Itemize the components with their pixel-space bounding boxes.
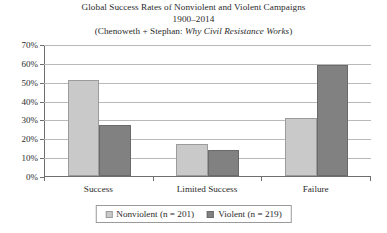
bar bbox=[208, 150, 240, 176]
y-axis-tick-label: 30% bbox=[22, 116, 39, 125]
y-axis-tick-mark bbox=[40, 102, 44, 103]
bar-group bbox=[45, 45, 154, 176]
y-axis-tick-mark bbox=[40, 158, 44, 159]
plot-area-wrapper: 70%60%50%40%30%20%10%0%SuccessLimited Su… bbox=[44, 45, 371, 177]
bar-chart: Global Success Rates of Nonviolent and V… bbox=[0, 0, 387, 233]
chart-legend: Nonviolent (n = 201)Violent (n = 219) bbox=[95, 205, 291, 223]
x-axis-category-label: Success bbox=[84, 184, 113, 195]
x-axis-tick-mark bbox=[370, 177, 371, 181]
y-axis-tick-mark bbox=[40, 120, 44, 121]
x-axis-tick-mark bbox=[153, 177, 154, 181]
bar bbox=[176, 144, 208, 176]
y-axis-tick-mark bbox=[40, 83, 44, 84]
legend-label: Violent (n = 219) bbox=[218, 209, 282, 219]
legend-item[interactable]: Violent (n = 219) bbox=[207, 209, 282, 219]
chart-source-line: (Chenoweth + Stephan: Why Civil Resistan… bbox=[0, 25, 387, 37]
y-axis-tick-mark bbox=[40, 64, 44, 65]
legend-swatch-icon bbox=[207, 211, 214, 218]
y-axis-tick-mark bbox=[40, 139, 44, 140]
plot-area: 70%60%50%40%30%20%10%0%SuccessLimited Su… bbox=[44, 45, 371, 177]
y-axis-tick-label: 70% bbox=[22, 41, 39, 50]
legend-label: Nonviolent (n = 201) bbox=[116, 209, 194, 219]
y-axis-tick-label: 0% bbox=[26, 173, 38, 182]
legend-item[interactable]: Nonviolent (n = 201) bbox=[105, 209, 194, 219]
y-axis-tick-label: 10% bbox=[22, 154, 39, 163]
bar bbox=[68, 80, 100, 176]
chart-title-line-1: Global Success Rates of Nonviolent and V… bbox=[0, 1, 387, 13]
bars-layer bbox=[45, 45, 371, 176]
legend-swatch-icon bbox=[105, 211, 112, 218]
chart-title-line-2: 1900–2014 bbox=[0, 13, 387, 25]
y-axis-tick-label: 50% bbox=[22, 78, 39, 87]
y-axis-tick-label: 40% bbox=[22, 97, 39, 106]
bar-group bbox=[262, 45, 371, 176]
y-axis-tick-mark bbox=[40, 45, 44, 46]
bar-group bbox=[154, 45, 263, 176]
x-axis-tick-mark bbox=[261, 177, 262, 181]
bar bbox=[99, 125, 131, 176]
source-prefix: (Chenoweth + Stephan: bbox=[95, 26, 185, 36]
source-suffix: ) bbox=[289, 26, 292, 36]
x-axis-category-label: Failure bbox=[303, 184, 329, 195]
bar bbox=[317, 65, 349, 176]
y-axis-tick-label: 20% bbox=[22, 135, 39, 144]
x-axis-line bbox=[44, 176, 371, 177]
source-book-title: Why Civil Resistance Works bbox=[185, 26, 289, 36]
chart-title-block: Global Success Rates of Nonviolent and V… bbox=[0, 1, 387, 38]
x-axis-tick-mark bbox=[44, 177, 45, 181]
y-axis-tick-label: 60% bbox=[22, 59, 39, 68]
x-axis-category-label: Limited Success bbox=[177, 184, 237, 195]
bar bbox=[285, 118, 317, 176]
